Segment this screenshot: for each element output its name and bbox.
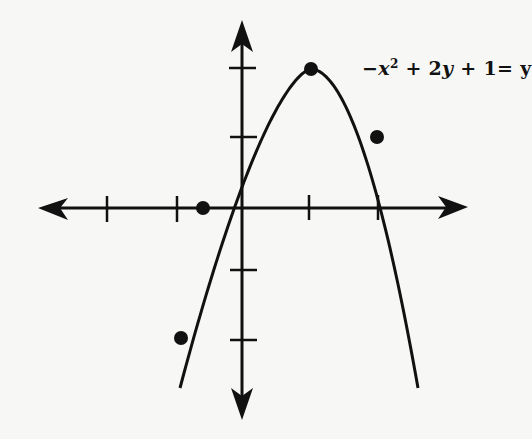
point-right — [370, 130, 384, 144]
point-lower-left — [174, 331, 188, 345]
equation-label: −x2 + 2y + 1= y — [362, 57, 532, 79]
point-vertex — [304, 62, 318, 76]
axis-arrows — [38, 20, 468, 420]
parabola-curve — [180, 69, 418, 388]
point-x-intercept — [196, 201, 210, 215]
